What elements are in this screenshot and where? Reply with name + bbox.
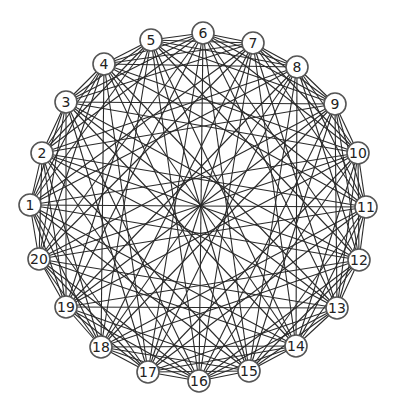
graph-edge bbox=[101, 260, 359, 347]
graph-node-2: 2 bbox=[31, 142, 53, 164]
graph-node-11: 11 bbox=[355, 196, 377, 218]
node-label: 14 bbox=[287, 338, 305, 354]
graph-node-8: 8 bbox=[286, 56, 308, 78]
node-label: 18 bbox=[92, 339, 110, 355]
node-label: 19 bbox=[57, 299, 75, 315]
node-label: 12 bbox=[350, 252, 368, 268]
node-label: 17 bbox=[139, 364, 157, 380]
graph-edge bbox=[199, 308, 337, 381]
graph-node-19: 19 bbox=[55, 296, 77, 318]
graph-node-12: 12 bbox=[348, 249, 370, 271]
graph-node-1: 1 bbox=[19, 194, 41, 216]
graph-node-17: 17 bbox=[137, 361, 159, 383]
graph-node-13: 13 bbox=[326, 297, 348, 319]
graph-node-20: 20 bbox=[28, 248, 50, 270]
graph-edge bbox=[148, 33, 203, 372]
node-label: 10 bbox=[349, 145, 367, 161]
node-label: 16 bbox=[190, 373, 208, 389]
graph-node-14: 14 bbox=[285, 335, 307, 357]
node-label: 13 bbox=[328, 300, 346, 316]
graph-node-7: 7 bbox=[242, 32, 264, 54]
graph-node-15: 15 bbox=[238, 360, 260, 382]
graph-edge bbox=[66, 102, 359, 260]
node-label: 9 bbox=[331, 96, 340, 112]
node-label: 15 bbox=[240, 363, 258, 379]
graph-edge bbox=[148, 67, 297, 372]
node-label: 6 bbox=[199, 25, 208, 41]
graph-node-18: 18 bbox=[90, 336, 112, 358]
node-label: 1 bbox=[26, 197, 35, 213]
graph-node-9: 9 bbox=[324, 93, 346, 115]
graph-node-6: 6 bbox=[192, 22, 214, 44]
node-label: 7 bbox=[249, 35, 258, 51]
graph-node-5: 5 bbox=[140, 29, 162, 51]
node-label: 2 bbox=[38, 145, 47, 161]
graph-node-10: 10 bbox=[347, 142, 369, 164]
graph-node-4: 4 bbox=[93, 53, 115, 75]
graph-node-16: 16 bbox=[188, 370, 210, 392]
node-label: 20 bbox=[30, 251, 48, 267]
node-label: 11 bbox=[357, 199, 375, 215]
graph-edge bbox=[249, 104, 335, 371]
circulant-graph-diagram: 1234567891011121314151617181920 bbox=[0, 0, 398, 413]
node-label: 8 bbox=[293, 59, 302, 75]
graph-edge bbox=[297, 67, 366, 207]
graph-edges bbox=[30, 33, 366, 381]
graph-node-3: 3 bbox=[55, 91, 77, 113]
node-label: 5 bbox=[147, 32, 156, 48]
node-label: 4 bbox=[100, 56, 109, 72]
node-label: 3 bbox=[62, 94, 71, 110]
